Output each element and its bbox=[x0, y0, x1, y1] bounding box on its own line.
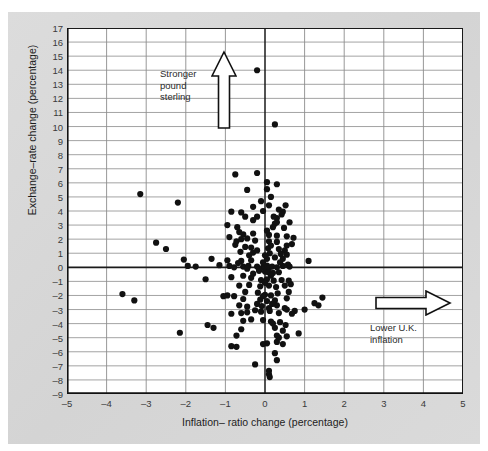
y-tick-label: –6 bbox=[52, 346, 63, 357]
data-point bbox=[284, 306, 290, 312]
data-point bbox=[272, 121, 278, 127]
data-point bbox=[267, 374, 273, 380]
y-tick-label: 5 bbox=[58, 191, 63, 202]
data-point bbox=[269, 301, 275, 307]
data-point bbox=[237, 249, 243, 255]
data-point bbox=[276, 310, 282, 316]
data-point bbox=[254, 247, 260, 253]
data-point bbox=[284, 295, 290, 301]
data-point bbox=[315, 302, 321, 308]
data-point bbox=[224, 257, 230, 263]
data-point bbox=[319, 294, 325, 300]
data-point bbox=[260, 259, 266, 265]
data-point bbox=[286, 289, 292, 295]
y-tick-labels: –9–8–7–6–5–4–3–2–10123456789101112131415… bbox=[38, 28, 63, 394]
data-point bbox=[284, 233, 290, 239]
y-tick-label: –1 bbox=[52, 276, 63, 287]
y-tick-label: 0 bbox=[58, 262, 63, 273]
data-point bbox=[270, 321, 276, 327]
y-tick-label: 8 bbox=[58, 149, 63, 160]
data-point bbox=[131, 297, 137, 303]
y-tick-label: 10 bbox=[52, 121, 63, 132]
data-point bbox=[255, 290, 261, 296]
x-tick-label: –2 bbox=[181, 398, 192, 409]
data-point bbox=[231, 293, 237, 299]
x-tick-label: –5 bbox=[62, 398, 73, 409]
data-point bbox=[305, 258, 311, 264]
data-point bbox=[277, 259, 283, 265]
y-tick-label: 17 bbox=[52, 23, 63, 34]
data-point bbox=[259, 303, 265, 309]
y-tick-label: 2 bbox=[58, 234, 63, 245]
data-point bbox=[250, 271, 256, 277]
data-point bbox=[235, 260, 241, 266]
y-tick-label: 16 bbox=[52, 37, 63, 48]
data-point bbox=[268, 292, 274, 298]
data-point bbox=[282, 202, 288, 208]
y-tick-label: 1 bbox=[58, 248, 63, 259]
data-point bbox=[254, 67, 260, 73]
stronger-pound-sterling-annotation: Stronger pound sterling bbox=[160, 68, 218, 103]
data-point bbox=[226, 234, 232, 240]
data-point bbox=[284, 333, 290, 339]
data-point bbox=[244, 304, 250, 310]
y-tick-label: –2 bbox=[52, 290, 63, 301]
data-point bbox=[248, 316, 254, 322]
data-point bbox=[238, 326, 244, 332]
data-point bbox=[262, 280, 268, 286]
data-point bbox=[232, 171, 238, 177]
y-tick-label: –7 bbox=[52, 360, 63, 371]
data-point bbox=[233, 238, 239, 244]
lower-uk-inflation-annotation: Lower U.K. inflation bbox=[370, 322, 460, 345]
data-point bbox=[252, 237, 258, 243]
data-point bbox=[280, 341, 286, 347]
data-point bbox=[274, 357, 280, 363]
data-point bbox=[185, 263, 191, 269]
data-point bbox=[276, 269, 282, 275]
data-point bbox=[246, 252, 252, 258]
data-point bbox=[286, 219, 292, 225]
y-tick-label: –4 bbox=[52, 318, 63, 329]
data-point bbox=[250, 204, 256, 210]
right-arrow-icon bbox=[374, 290, 452, 316]
data-point bbox=[275, 290, 281, 296]
data-point bbox=[277, 319, 283, 325]
data-point bbox=[268, 273, 274, 279]
data-point bbox=[203, 276, 209, 282]
data-point bbox=[240, 296, 246, 302]
data-point bbox=[273, 284, 279, 290]
data-point bbox=[274, 181, 280, 187]
figure-panel: –9–8–7–6–5–4–3–2–10123456789101112131415… bbox=[8, 12, 480, 444]
data-point bbox=[228, 209, 234, 215]
data-point bbox=[242, 244, 248, 250]
data-point bbox=[244, 187, 250, 193]
y-axis-label: Exchange–rate change (percentage) bbox=[26, 30, 38, 230]
y-tick-label: 13 bbox=[52, 79, 63, 90]
data-point bbox=[268, 194, 274, 200]
data-point bbox=[244, 266, 250, 272]
data-point bbox=[208, 256, 214, 262]
data-point bbox=[271, 214, 277, 220]
data-point bbox=[250, 230, 256, 236]
data-point bbox=[244, 309, 250, 315]
x-tick-labels: –5–4–3–2–1012345 bbox=[67, 398, 463, 414]
data-point bbox=[264, 179, 270, 185]
data-point bbox=[289, 241, 295, 247]
y-tick-label: –8 bbox=[52, 374, 63, 385]
data-point bbox=[258, 198, 264, 204]
data-point bbox=[260, 341, 266, 347]
x-tick-label: –1 bbox=[220, 398, 231, 409]
data-point bbox=[282, 283, 288, 289]
data-point bbox=[270, 224, 276, 230]
data-point bbox=[238, 310, 244, 316]
data-point bbox=[272, 350, 278, 356]
data-point bbox=[119, 291, 125, 297]
x-tick-label: –4 bbox=[101, 398, 112, 409]
data-point bbox=[296, 330, 302, 336]
data-point bbox=[260, 317, 266, 323]
x-tick-label: 3 bbox=[381, 398, 386, 409]
data-point bbox=[137, 191, 143, 197]
y-tick-label: 4 bbox=[58, 206, 63, 217]
data-point bbox=[240, 273, 246, 279]
data-point bbox=[220, 293, 226, 299]
